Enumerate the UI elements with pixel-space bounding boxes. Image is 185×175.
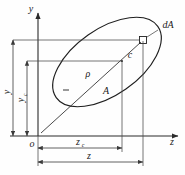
dim-label-yc-group: y c [15, 93, 28, 103]
area-boundary-ellipse [37, 0, 176, 125]
origin-label: o [30, 138, 35, 149]
centroid-label: c [128, 49, 133, 60]
dim-label-zc: z [75, 136, 80, 147]
dim-label-y: y [1, 89, 12, 95]
radius-rho-label: ρ [85, 68, 91, 79]
dim-label-y-group: y [1, 89, 12, 95]
dim-label-zc-subscript: c [82, 142, 85, 148]
radius-rho-line [41, 42, 141, 133]
vertical-dimension-group [13, 40, 27, 136]
z-axis-label: z [169, 136, 174, 147]
dim-label-yc: y [15, 97, 26, 103]
y-axis-label: y [28, 3, 34, 14]
da-leader-line [147, 30, 158, 37]
figure-container: y z o A c dA ρ y y c z c z [0, 0, 185, 175]
area-moment-diagram: y z o A c dA ρ y y c z c z [0, 0, 185, 175]
element-da-label: dA [162, 19, 174, 30]
dim-label-z: z [86, 150, 91, 161]
centroid-point [121, 60, 123, 62]
dim-label-yc-subscript: c [22, 93, 28, 96]
area-label: A [102, 85, 110, 96]
